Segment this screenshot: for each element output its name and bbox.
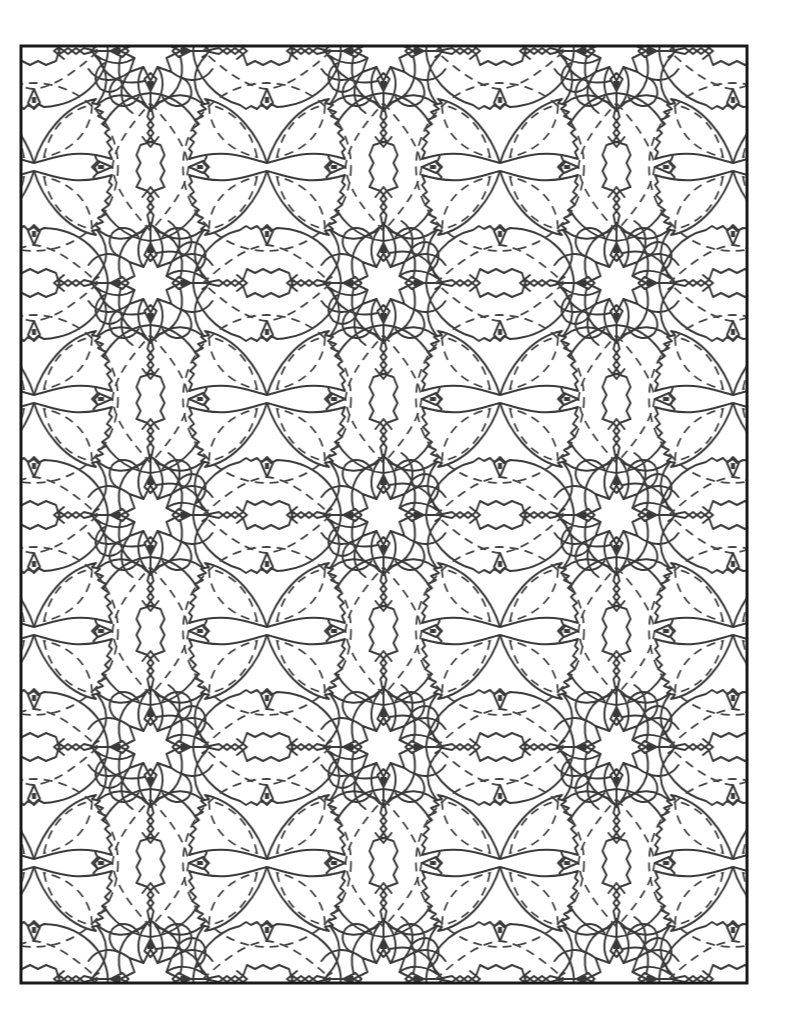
pattern-artwork bbox=[0, 0, 791, 1022]
coloring-pattern bbox=[21, 46, 747, 983]
coloring-page bbox=[0, 0, 791, 1022]
